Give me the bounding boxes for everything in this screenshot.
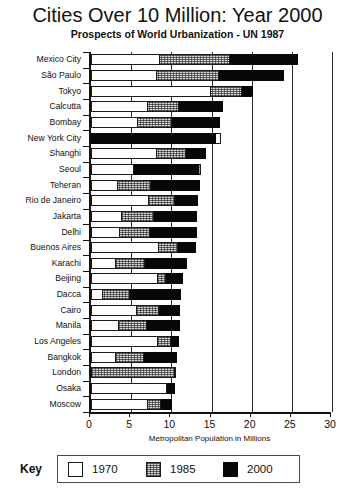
legend-label: 1985 — [170, 461, 196, 477]
y-axis-label: Bangkok — [48, 352, 81, 363]
bar-segment-1970 — [91, 336, 158, 347]
y-axis-label: Jakarta — [53, 211, 81, 222]
legend-swatch-1970 — [68, 462, 83, 477]
y-axis-label: New York City — [28, 133, 82, 144]
plot-area — [89, 52, 330, 412]
bar-row — [91, 54, 332, 65]
bar-row — [91, 180, 332, 191]
x-axis-tick — [330, 412, 331, 417]
bar-rows — [91, 52, 330, 412]
y-axis-label: Delhi — [61, 227, 81, 238]
bar-segment-1970 — [91, 320, 119, 331]
bar-segment-1970 — [91, 227, 120, 238]
y-axis-label: Tokyo — [59, 86, 81, 97]
bar-row — [91, 367, 332, 378]
x-axis-title: Metropolitan Population in Millions — [89, 434, 330, 443]
bar-row — [91, 320, 332, 331]
bar-segment-1970 — [91, 148, 157, 159]
y-axis-label: Moscow — [49, 399, 81, 410]
chart-subtitle: Prospects of World Urbanization - UN 198… — [0, 28, 355, 40]
y-axis-label: London — [52, 367, 81, 378]
bar-segment-1970 — [91, 86, 211, 97]
y-axis-label: Dacca — [57, 289, 81, 300]
x-axis-tick-label: 30 — [315, 418, 345, 430]
bar-segment-1970 — [91, 117, 138, 128]
y-axis-label: Los Angeles — [34, 336, 81, 347]
x-axis-tick-label: 15 — [195, 418, 225, 430]
bar-segment-1970 — [91, 399, 148, 410]
y-axis-label: Rio de Janeiro — [26, 195, 81, 206]
bar-row — [91, 86, 332, 97]
bar-row — [91, 336, 332, 347]
bar-segment-2000 — [91, 133, 216, 144]
y-axis-label: Calcutta — [49, 101, 81, 112]
bar-segment-1970 — [91, 101, 148, 112]
bar-segment-1970 — [91, 164, 134, 175]
x-axis-tick — [290, 412, 291, 417]
legend-swatch-2000 — [223, 462, 238, 477]
x-axis-tick-label: 25 — [275, 418, 305, 430]
bar-row — [91, 164, 332, 175]
bar-row — [91, 352, 332, 363]
bar-segment-1970 — [91, 383, 167, 394]
bar-segment-1970 — [91, 273, 158, 284]
bar-row — [91, 133, 332, 144]
bar-segment-1970 — [91, 289, 103, 300]
y-axis-label: Beijing — [55, 273, 81, 284]
bar-row — [91, 258, 332, 269]
y-axis-labels: Mexico CitySão PauloTokyoCalcuttaBombayN… — [0, 52, 86, 412]
x-axis-tick — [210, 412, 211, 417]
y-axis-label: Shanghi — [49, 148, 81, 159]
bar-segment-1970 — [91, 352, 116, 363]
bar-segment-1970 — [91, 258, 116, 269]
x-axis-tick — [169, 412, 170, 417]
y-axis-label: Buenos Aires — [30, 242, 81, 253]
legend-title: Key — [20, 462, 42, 476]
bar-row — [91, 195, 332, 206]
bar-row — [91, 101, 332, 112]
bar-segment-1970 — [91, 211, 122, 222]
legend-swatch-1985 — [146, 462, 161, 477]
bar-segment-1970 — [91, 70, 157, 81]
x-axis-tick-label: 20 — [235, 418, 265, 430]
gridline-30 — [332, 52, 333, 412]
bar-segment-1970 — [91, 242, 159, 253]
legend-label: 2000 — [247, 461, 273, 477]
x-axis-tick — [129, 412, 130, 417]
y-axis-label: Mexico City — [37, 54, 81, 65]
y-axis-label: Cairo — [60, 305, 81, 316]
legend: 197019852000 — [57, 455, 300, 483]
y-axis-label: Seoul — [59, 164, 81, 175]
bar-segment-1970 — [91, 305, 137, 316]
y-axis-label: Karachi — [52, 258, 81, 269]
bar-segment-1985 — [91, 367, 175, 378]
x-axis-tick-label: 10 — [154, 418, 184, 430]
bar-row — [91, 383, 332, 394]
x-axis-tick — [250, 412, 251, 417]
x-axis-tick-label: 0 — [74, 418, 104, 430]
bar-row — [91, 305, 332, 316]
bar-row — [91, 148, 332, 159]
y-axis-label: Teheran — [50, 180, 81, 191]
bar-row — [91, 70, 332, 81]
bar-row — [91, 399, 332, 410]
y-axis-label: Manila — [56, 320, 81, 331]
bar-segment-1970 — [91, 195, 149, 206]
chart-root: Cities Over 10 Million: Year 2000 Prospe… — [0, 0, 355, 495]
x-axis-tick-label: 5 — [114, 418, 144, 430]
legend-label: 1970 — [92, 461, 118, 477]
bar-row — [91, 117, 332, 128]
y-axis-label: São Paulo — [41, 70, 81, 81]
y-axis-label: Bombay — [49, 117, 81, 128]
x-axis-tick — [89, 412, 90, 417]
y-axis-label: Osaka — [56, 383, 81, 394]
chart-title: Cities Over 10 Million: Year 2000 — [0, 4, 355, 27]
bar-segment-1970 — [91, 54, 160, 65]
bar-row — [91, 289, 332, 300]
bar-row — [91, 242, 332, 253]
bar-segment-1970 — [91, 180, 118, 191]
bar-row — [91, 211, 332, 222]
bar-row — [91, 273, 332, 284]
bar-row — [91, 227, 332, 238]
